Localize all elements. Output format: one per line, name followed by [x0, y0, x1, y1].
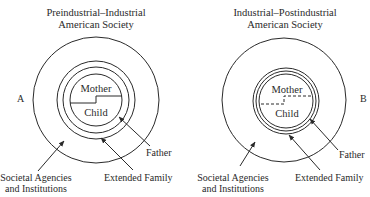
mother-label-b: Mother: [272, 84, 303, 95]
father-circle-b: [256, 71, 316, 131]
family-diagram: Preindustrial–Industrial American Societ…: [0, 0, 370, 197]
father-arrow-b: [310, 119, 338, 150]
diagram-b-panel-label: B: [360, 93, 367, 104]
societal-label-a-line2: and Institutions: [5, 183, 67, 194]
child-label-a: Child: [84, 107, 108, 118]
societal-agencies-arrow-a: [38, 141, 64, 171]
societal-label-b-line1: Societal Agencies: [197, 172, 268, 183]
diagram-a: Preindustrial–Industrial American Societ…: [0, 7, 172, 194]
diagram-a-title-line2: American Society: [58, 19, 134, 30]
extended-family-circle-b: [253, 68, 319, 134]
diagram-b: Industrial–Postindustrial American Socie…: [197, 7, 367, 194]
mother-child-divider-a: [70, 96, 122, 103]
societal-label-a-line1: Societal Agencies: [0, 172, 71, 183]
mother-child-divider-b: [261, 96, 312, 104]
father-label-a: Father: [146, 147, 172, 158]
diagram-a-title-line1: Preindustrial–Industrial: [46, 7, 145, 18]
diagram-b-title-line2: American Society: [247, 19, 323, 30]
mother-label-a: Mother: [81, 83, 112, 94]
child-label-b: Child: [275, 108, 299, 119]
father-label-b: Father: [339, 149, 365, 160]
father-arrow-a: [119, 117, 150, 146]
societal-label-b-line2: and Institutions: [202, 183, 264, 194]
diagram-b-title-line1: Industrial–Postindustrial: [233, 7, 336, 18]
extended-family-label-a: Extended Family: [104, 172, 173, 183]
mother-child-circle-b: [259, 74, 313, 128]
diagram-a-panel-label: A: [17, 93, 25, 104]
extended-family-label-b: Extended Family: [295, 172, 364, 183]
extended-family-arrow-b: [289, 135, 320, 170]
